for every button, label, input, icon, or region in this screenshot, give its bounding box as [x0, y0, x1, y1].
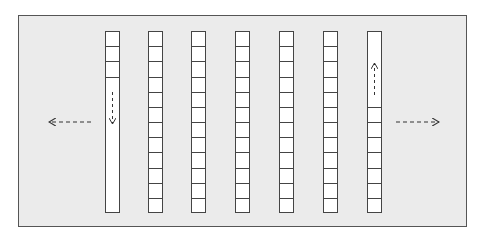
arrow-layer: [0, 0, 485, 240]
